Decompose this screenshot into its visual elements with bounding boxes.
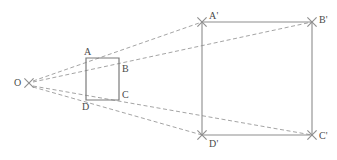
x-cross-icon-O [24, 78, 33, 87]
point-label-B-prime: B' [319, 15, 328, 25]
projection-rays-group [33, 22, 312, 135]
ray-O-C-to-C-prime [33, 86, 312, 135]
point-label-D: D [82, 102, 89, 112]
rectangle-A-prime-B-prime-C-prime-D-prime [202, 22, 312, 135]
ray-O-B-to-B-prime [33, 22, 312, 82]
diagram-canvas: O A B C D A' B' C' D' [0, 0, 337, 160]
geometry-figure [0, 0, 337, 160]
point-label-C: C [122, 90, 129, 100]
vertex-markers-group [24, 17, 316, 139]
point-label-C-prime: C' [319, 131, 328, 141]
point-label-O: O [14, 78, 21, 88]
point-label-D-prime: D' [209, 139, 218, 149]
point-label-A-prime: A' [209, 11, 218, 21]
point-label-B: B [122, 64, 129, 74]
point-label-A: A [84, 47, 91, 57]
